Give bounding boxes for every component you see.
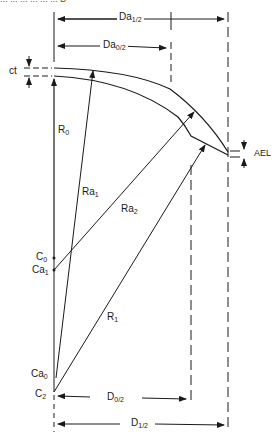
d0-2-dimension-right [142,398,186,399]
label-ael: AEL [254,149,271,158]
label-ct: ct [9,66,17,76]
label-ca0: Ca0 [31,369,48,380]
label-c2: C2 [35,389,46,400]
label-ca1: Ca1 [32,265,49,276]
radius-r1 [54,145,205,392]
label-r0: R0 [58,125,69,136]
center-ca1 [53,269,56,272]
label-da0-2: Da0/2 [101,40,128,51]
radius-ra2 [54,112,194,270]
posterior-surface-curve [54,76,228,155]
label-d0-2: D0/2 [107,392,124,403]
label-ra1: Ra1 [82,187,99,198]
label-d1-2: D1/2 [129,418,150,429]
label-ra2: Ra2 [121,204,138,215]
d0-2-dimension-left [58,396,90,397]
d1-2-dimension-right [155,424,224,425]
anterior-surface-curve [54,68,228,152]
radius-ra1 [56,71,93,378]
label-r1: R1 [107,312,118,323]
center-c0 [53,257,56,260]
label-da1-2: Da1/2 [117,12,144,23]
label-c0: C0 [36,252,47,263]
